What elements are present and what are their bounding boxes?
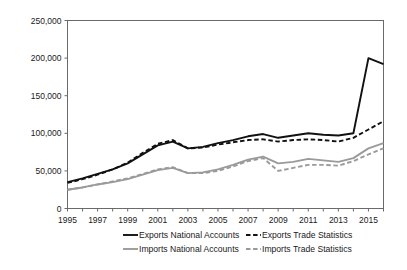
legend-label-2: Imports National Accounts [139,244,239,254]
x-tick-label: 1997 [88,215,107,225]
x-tick-label: 1995 [58,215,77,225]
legend-label-3: Imports Trade Statistics [262,244,352,254]
x-tick-label: 2007 [239,215,258,225]
y-tick-label: 0 [57,204,62,214]
y-tick-label: 150,000 [31,91,62,101]
y-tick-label: 100,000 [31,128,62,138]
line-chart: 050,000100,000150,000200,000250,000 1995… [0,0,407,270]
x-tick-label: 2003 [178,215,197,225]
x-tick-label: 2013 [329,215,348,225]
x-tick-label: 2011 [299,215,318,225]
legend-label-1: Exports Trade Statistics [262,230,352,240]
x-tick-label: 2015 [359,215,378,225]
x-tick-label: 1999 [118,215,137,225]
y-tick-label: 50,000 [36,166,62,176]
chart-canvas: 050,000100,000150,000200,000250,000 1995… [0,0,407,270]
y-tick-label: 250,000 [31,16,62,26]
y-tick-label: 200,000 [31,53,62,63]
x-tick-label: 2009 [269,215,288,225]
legend-label-0: Exports National Accounts [139,230,239,240]
x-tick-label: 2001 [148,215,167,225]
x-tick-label: 2005 [209,215,228,225]
